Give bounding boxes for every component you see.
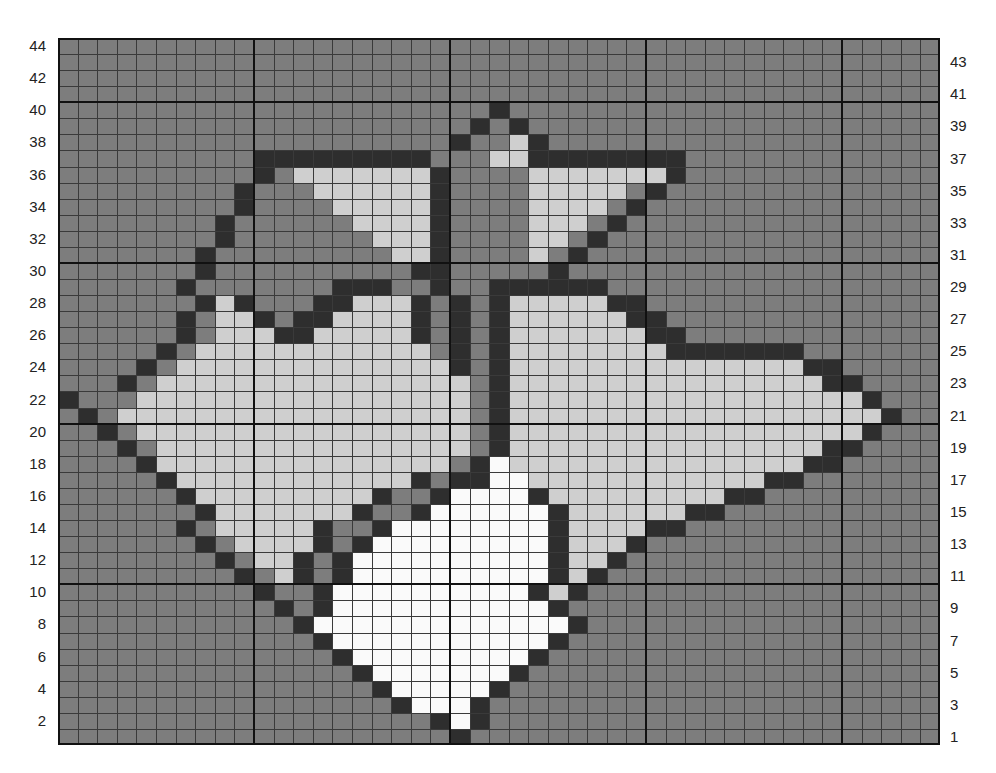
row-tick-left-22: 22	[29, 392, 46, 407]
row-tick-right-7: 7	[950, 633, 958, 648]
row-tick-right-33: 33	[950, 215, 967, 230]
row-tick-left-44: 44	[29, 38, 46, 53]
row-tick-right-9: 9	[950, 600, 958, 615]
row-tick-right-29: 29	[950, 279, 967, 294]
row-tick-left-8: 8	[38, 616, 46, 631]
row-tick-left-14: 14	[29, 520, 46, 535]
row-tick-left-2: 2	[38, 713, 46, 728]
row-tick-right-39: 39	[950, 118, 967, 133]
row-tick-right-17: 17	[950, 472, 967, 487]
row-tick-left-40: 40	[29, 102, 46, 117]
row-tick-left-18: 18	[29, 456, 46, 471]
row-tick-left-6: 6	[38, 649, 46, 664]
row-tick-right-41: 41	[950, 86, 967, 101]
row-tick-left-12: 12	[29, 552, 46, 567]
row-tick-right-5: 5	[950, 665, 958, 680]
row-tick-left-4: 4	[38, 681, 46, 696]
row-tick-right-31: 31	[950, 247, 967, 262]
row-tick-left-20: 20	[29, 424, 46, 439]
pattern-grid-canvas[interactable]	[58, 38, 940, 745]
row-tick-right-35: 35	[950, 183, 967, 198]
row-tick-right-25: 25	[950, 343, 967, 358]
row-tick-right-27: 27	[950, 311, 967, 326]
row-tick-left-32: 32	[29, 231, 46, 246]
row-tick-right-23: 23	[950, 375, 967, 390]
row-tick-left-16: 16	[29, 488, 46, 503]
row-tick-right-21: 21	[950, 408, 967, 423]
row-tick-left-34: 34	[29, 199, 46, 214]
row-tick-right-43: 43	[950, 54, 967, 69]
row-tick-left-24: 24	[29, 359, 46, 374]
row-tick-right-13: 13	[950, 536, 967, 551]
row-axis-left: 4442403836343230282624222018161412108642	[0, 38, 52, 745]
row-axis-right: 434139373533312927252321191715131197531	[944, 38, 996, 745]
row-tick-left-26: 26	[29, 327, 46, 342]
pattern-grid[interactable]	[58, 38, 940, 745]
row-tick-left-38: 38	[29, 134, 46, 149]
chart-page: 4442403836343230282624222018161412108642…	[0, 0, 996, 773]
row-tick-right-15: 15	[950, 504, 967, 519]
row-tick-right-19: 19	[950, 440, 967, 455]
row-tick-left-42: 42	[29, 70, 46, 85]
row-tick-left-36: 36	[29, 167, 46, 182]
row-tick-left-28: 28	[29, 295, 46, 310]
row-tick-right-37: 37	[950, 151, 967, 166]
row-tick-left-10: 10	[29, 584, 46, 599]
row-tick-right-1: 1	[950, 729, 958, 744]
row-tick-right-3: 3	[950, 697, 958, 712]
row-tick-right-11: 11	[950, 568, 966, 583]
row-tick-left-30: 30	[29, 263, 46, 278]
